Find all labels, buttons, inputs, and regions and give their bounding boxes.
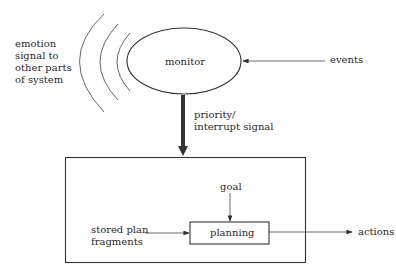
stored-plan-label: stored plan fragments [91, 224, 148, 248]
emotion-label-line4: of system [15, 74, 72, 86]
emotion-label: emotion signal to other parts of system [15, 38, 72, 86]
actions-label: actions [358, 226, 394, 238]
planning-label: planning [210, 227, 254, 239]
emotion-label-line1: emotion [15, 38, 72, 50]
stored-plan-line2: fragments [91, 236, 148, 248]
emotion-signal-arcs [80, 14, 131, 112]
stored-plan-line1: stored plan [91, 224, 148, 236]
priority-label: priority/ interrupt signal [194, 109, 274, 133]
monitor-label: monitor [165, 56, 205, 68]
priority-arrowhead [178, 146, 188, 156]
events-label: events [330, 54, 363, 66]
priority-label-line1: priority/ [194, 109, 274, 121]
emotion-label-line3: other parts [15, 62, 72, 74]
goal-label: goal [220, 181, 242, 193]
emotion-label-line2: signal to [15, 50, 72, 62]
priority-label-line2: interrupt signal [194, 121, 274, 133]
